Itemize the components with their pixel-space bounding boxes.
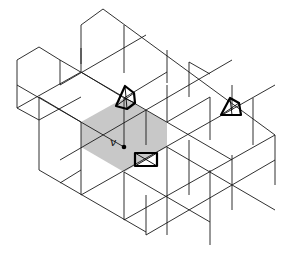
- lattice-diagram: v: [0, 0, 288, 259]
- triangle-marker: [221, 98, 241, 115]
- lattice-lines: [17, 9, 275, 245]
- vertex-v-dot: [122, 145, 127, 150]
- vertex-v-label: v: [110, 136, 117, 149]
